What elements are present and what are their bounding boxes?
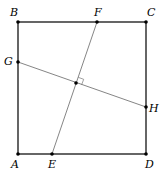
square-abcd [18, 22, 146, 154]
segment-ef [52, 22, 97, 154]
point-markers [16, 20, 148, 156]
point-h [144, 105, 148, 109]
label-h: H [148, 102, 159, 115]
point-a [16, 152, 20, 156]
label-f: F [93, 6, 102, 19]
label-c: C [147, 6, 156, 19]
point-f [95, 20, 99, 24]
point-e [50, 152, 54, 156]
label-d: D [144, 158, 154, 171]
label-g: G [4, 55, 13, 68]
label-a: A [10, 158, 19, 171]
point-d [144, 152, 148, 156]
point-b [16, 20, 20, 24]
label-e: E [47, 158, 56, 171]
label-b: B [9, 6, 18, 19]
point-g [16, 60, 20, 64]
point-c [144, 20, 148, 24]
point-intersection [74, 81, 78, 85]
geometry-diagram: A B C D E F G H [0, 0, 167, 175]
